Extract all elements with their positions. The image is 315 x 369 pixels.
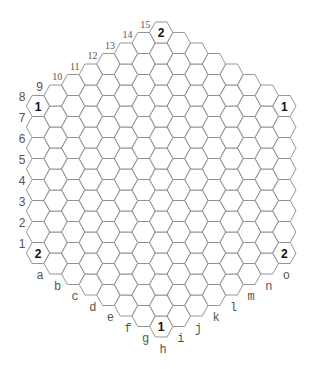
row-label: 6 (19, 132, 26, 146)
column-label: j (195, 322, 202, 336)
row-label: 10 (52, 71, 62, 82)
cell-number: 2 (35, 247, 42, 261)
cell-number: 2 (158, 26, 165, 40)
row-label: 13 (105, 40, 115, 51)
column-label: i (177, 332, 184, 346)
column-label: k (212, 311, 219, 325)
column-label: o (283, 269, 290, 283)
row-label: 15 (140, 19, 150, 30)
column-label: l (230, 301, 237, 315)
column-label: g (142, 332, 149, 346)
row-label: 4 (19, 174, 26, 188)
row-label: 12 (87, 50, 97, 61)
hex-board[interactable]: 211221 123456789101112131415 abcdefghijk… (0, 0, 315, 369)
row-label: 1 (19, 237, 26, 251)
row-label: 5 (19, 153, 26, 167)
column-label: c (72, 290, 79, 304)
cell-number: 1 (281, 100, 288, 114)
column-label: f (124, 322, 131, 336)
board-cells[interactable]: 211221 (26, 22, 296, 337)
column-label: e (107, 311, 114, 325)
column-label: n (265, 280, 272, 294)
row-label: 9 (36, 80, 43, 94)
row-label: 11 (70, 61, 80, 72)
row-label: 7 (19, 111, 26, 125)
column-label: b (54, 280, 61, 294)
row-label: 2 (19, 216, 26, 230)
row-label: 14 (123, 29, 133, 40)
cell-number: 1 (158, 320, 165, 334)
column-label: h (160, 343, 167, 357)
cell-number: 2 (281, 247, 288, 261)
row-label: 8 (19, 90, 26, 104)
column-label: m (248, 290, 255, 304)
cell-number: 1 (35, 100, 42, 114)
column-label: d (89, 301, 96, 315)
column-label: a (36, 269, 43, 283)
row-label: 3 (19, 195, 26, 209)
